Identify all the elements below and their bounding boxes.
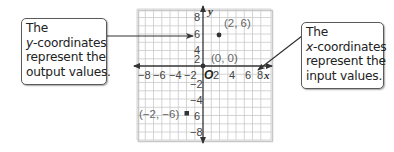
- x-axis-label: x: [263, 69, 270, 81]
- callout-line: input values.: [306, 69, 380, 84]
- callout-line: The: [306, 25, 380, 40]
- x-coordinates-callout: The x-coordinates represent the input va…: [301, 22, 384, 89]
- y-tick-label: 6: [194, 28, 200, 40]
- y-axis-label: y: [206, 5, 213, 17]
- callout-line: represent the: [26, 50, 103, 65]
- point-label: (−2, −6): [139, 108, 179, 120]
- callout-line: The: [26, 21, 103, 36]
- y-tick-label: −2: [190, 78, 203, 90]
- point-label: (0, 0): [211, 52, 238, 64]
- variable-x: x: [306, 40, 313, 54]
- y-tick-label: −8: [190, 126, 203, 138]
- y-coordinates-callout: The y-coordinates represent the output v…: [21, 18, 107, 85]
- callout-line: represent the: [306, 54, 380, 69]
- callout-text: -coordinates: [33, 36, 106, 50]
- callout-line: y-coordinates: [26, 36, 103, 51]
- x-tick-label: 8: [257, 69, 263, 81]
- point-2-6: [217, 33, 222, 38]
- callout-line: output values.: [26, 65, 103, 80]
- x-tick-label: −6: [153, 69, 166, 81]
- right-callout-arrow: [258, 36, 302, 70]
- x-tick-label: 6: [245, 69, 251, 81]
- variable-y: y: [26, 36, 33, 50]
- point-neg2-neg6: [185, 111, 190, 116]
- x-tick-label: 4: [229, 69, 235, 81]
- y-tick-label: 6: [194, 110, 200, 122]
- callout-line: x-coordinates: [306, 40, 380, 55]
- y-tick-label: 2: [194, 53, 200, 65]
- callout-text: -coordinates: [313, 40, 386, 54]
- point-0-0: [201, 64, 206, 69]
- y-tick-label: −4: [190, 94, 203, 106]
- point-label: (2, 6): [224, 17, 251, 29]
- x-tick-label: 2: [213, 69, 219, 81]
- x-tick-label: −4: [169, 69, 182, 81]
- x-tick-label: −8: [138, 69, 151, 81]
- y-tick-label: 8: [194, 11, 200, 23]
